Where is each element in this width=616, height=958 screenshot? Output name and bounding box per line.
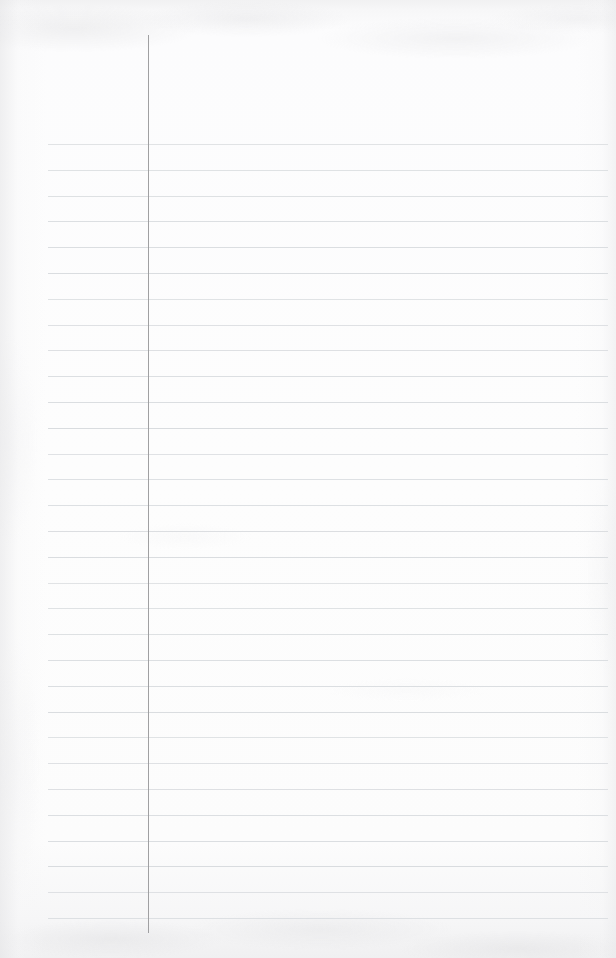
notebook-page [0, 0, 616, 958]
writing-area [148, 144, 608, 918]
